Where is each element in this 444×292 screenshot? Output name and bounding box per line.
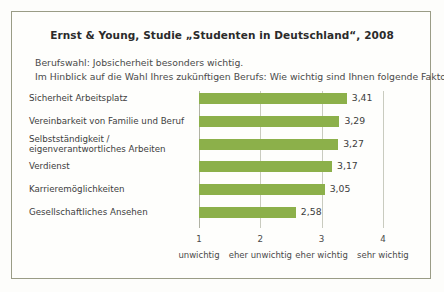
bar-row: Karrieremöglichkeiten3,05 xyxy=(12,183,432,205)
bar-row: Verdienst3,17 xyxy=(12,160,432,182)
bar-row: Sicherheit Arbeitsplatz3,41 xyxy=(12,92,432,114)
bar xyxy=(199,139,338,150)
bar xyxy=(199,184,325,195)
x-tick-number: 4 xyxy=(363,234,403,244)
bar-row: Selbstständigkeit /eigenverantwortliches… xyxy=(12,138,432,160)
bar-category-label: Karrieremöglichkeiten xyxy=(29,184,197,195)
bar-category-label-line1: Selbstständigkeit / xyxy=(29,134,197,145)
x-tick-number: 3 xyxy=(302,234,342,244)
bar-category-label: Selbstständigkeit /eigenverantwortliches… xyxy=(29,134,197,155)
x-tick-number: 1 xyxy=(179,234,219,244)
chart-frame: Ernst & Young, Studie „Studenten in Deut… xyxy=(11,11,431,279)
bar-category-label: Gesellschaftliches Ansehen xyxy=(29,207,197,218)
bar-row: Gesellschaftliches Ansehen2,58 xyxy=(12,206,432,228)
plot-area: Sicherheit Arbeitsplatz3,41Vereinbarkeit… xyxy=(12,12,432,280)
bar-category-label-line1: Karrieremöglichkeiten xyxy=(29,184,197,195)
bar-category-label-line2: eigenverantwortliches Arbeiten xyxy=(29,144,197,155)
bar-value-label: 3,27 xyxy=(343,138,364,149)
bar-category-label: Vereinbarkeit von Familie und Beruf xyxy=(29,116,197,127)
bar-category-label-line1: Verdienst xyxy=(29,161,197,172)
bar-category-label-line1: Gesellschaftliches Ansehen xyxy=(29,207,197,218)
bar-value-label: 3,29 xyxy=(344,115,365,126)
bar-category-label: Verdienst xyxy=(29,161,197,172)
bar-category-label: Sicherheit Arbeitsplatz xyxy=(29,93,197,104)
bar-category-label-line1: Vereinbarkeit von Familie und Beruf xyxy=(29,116,197,127)
x-tick-number: 2 xyxy=(240,234,280,244)
bar xyxy=(199,93,347,104)
bar xyxy=(199,161,332,172)
x-tick-description: sehr wichtig xyxy=(338,250,428,260)
bar xyxy=(199,207,296,218)
chart-figure: Ernst & Young, Studie „Studenten in Deut… xyxy=(0,0,444,292)
bar xyxy=(199,116,339,127)
bar-value-label: 2,58 xyxy=(301,206,322,217)
bar-value-label: 3,05 xyxy=(330,183,351,194)
bar-category-label-line1: Sicherheit Arbeitsplatz xyxy=(29,93,197,104)
bar-value-label: 3,41 xyxy=(352,92,373,103)
bar-value-label: 3,17 xyxy=(337,160,358,171)
